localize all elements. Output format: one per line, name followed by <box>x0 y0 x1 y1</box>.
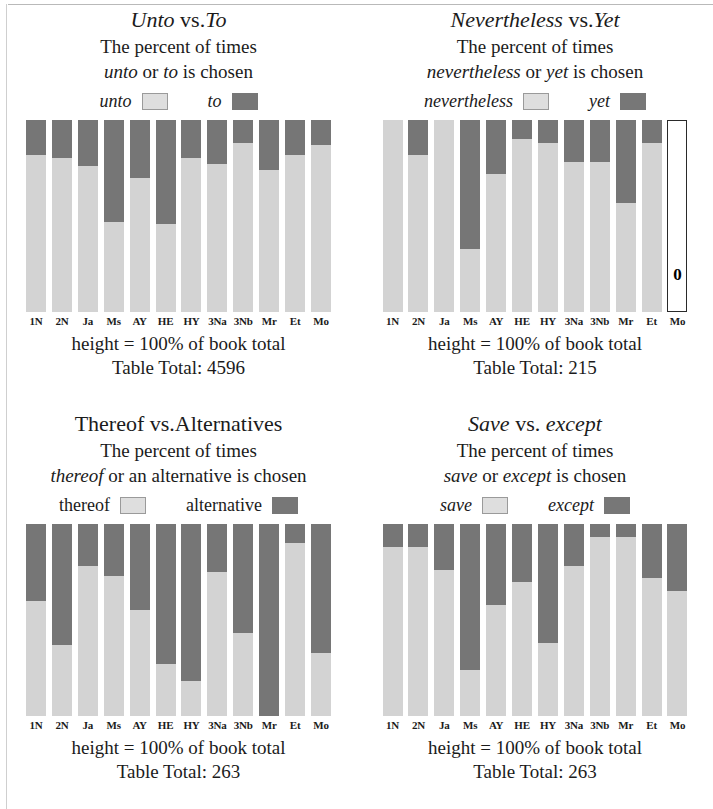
footer-table-total: Table Total: 263 <box>428 760 642 784</box>
bar-segment-dark <box>285 120 305 155</box>
x-tick-HY: HY <box>538 719 558 731</box>
bar-segment-dark <box>642 524 662 578</box>
bar-3Na <box>564 524 584 716</box>
x-tick-1N: 1N <box>26 315 46 327</box>
bar-segment-dark <box>564 120 584 162</box>
bar-segment-light <box>78 166 98 312</box>
bar-Ms <box>460 524 480 716</box>
bar-3Nb <box>590 120 610 312</box>
x-tick-3Nb: 3Nb <box>590 315 610 327</box>
x-tick-3Nb: 3Nb <box>590 719 610 731</box>
bar-segment-dark <box>460 524 480 670</box>
legend-swatch-dark <box>232 93 258 110</box>
bar-segment-light <box>434 570 454 716</box>
x-tick-Ms: Ms <box>460 315 480 327</box>
bar-segment-dark <box>311 120 331 145</box>
bar-segment-light <box>156 664 176 716</box>
bar-segment-light <box>52 158 72 312</box>
subtitle-term1: nevertheless <box>427 61 521 82</box>
plot-area <box>26 120 331 312</box>
footer-height-note: height = 100% of book total <box>428 736 642 760</box>
subtitle-term1: save <box>444 465 478 486</box>
bar-Ms <box>104 120 124 312</box>
x-tick-3Na: 3Na <box>564 315 584 327</box>
bar-segment-dark <box>259 524 279 716</box>
plot-area: 0 <box>383 120 688 312</box>
x-axis-labels: 1N2NJaMsAYHEHY3Na3NbMrEtMo <box>383 315 688 327</box>
subtitle-conj: or <box>138 61 163 82</box>
panel-title-vs: vs. <box>563 7 594 32</box>
x-tick-3Na: 3Na <box>207 719 227 731</box>
bar-2N <box>52 120 72 312</box>
panel-subtitle-line2: nevertheless or yet is chosen <box>427 60 643 83</box>
x-tick-Ja: Ja <box>434 315 454 327</box>
bar-AY <box>130 120 150 312</box>
bar-Mo <box>311 524 331 716</box>
bar-segment-light <box>311 653 331 716</box>
bar-segment-light <box>512 139 532 312</box>
bar-segment-light <box>538 643 558 716</box>
bar-segment-dark <box>104 120 124 222</box>
panel-footer: height = 100% of book total Table Total:… <box>428 736 642 784</box>
bar-segment-light <box>285 155 305 312</box>
bar-3Na <box>564 120 584 312</box>
panel-footer: height = 100% of book total Table Total:… <box>72 332 286 380</box>
legend-swatch-dark <box>272 497 298 514</box>
subtitle-term1: unto <box>104 61 138 82</box>
bar-segment-dark <box>642 120 662 143</box>
bar-segment-light <box>383 120 403 312</box>
bar-segment-light <box>26 155 46 312</box>
bar-3Nb <box>233 120 253 312</box>
subtitle-term2: yet <box>546 61 568 82</box>
bar-AY <box>130 524 150 716</box>
footer-table-total: Table Total: 263 <box>72 760 286 784</box>
bar-segment-dark <box>285 524 305 543</box>
bar-Et <box>285 120 305 312</box>
x-tick-3Nb: 3Nb <box>233 315 253 327</box>
bar-segment-dark <box>667 524 687 591</box>
x-tick-1N: 1N <box>383 315 403 327</box>
x-tick-2N: 2N <box>408 719 428 731</box>
bar-Ja <box>78 120 98 312</box>
x-tick-1N: 1N <box>26 719 46 731</box>
x-tick-HY: HY <box>181 719 201 731</box>
x-tick-HE: HE <box>512 315 532 327</box>
bar-segment-dark <box>26 524 46 601</box>
bar-segment-dark <box>434 524 454 570</box>
panel-title: Save vs. except <box>468 410 602 437</box>
panel-subtitle-line2: save or except is chosen <box>444 464 627 487</box>
bar-segment-light <box>383 547 403 716</box>
bar-segment-dark <box>590 524 610 537</box>
bar-3Nb <box>233 524 253 716</box>
panel-title-term2: Alternatives <box>175 411 283 436</box>
bar-segment-light <box>78 566 98 716</box>
legend: nevertheless yet <box>424 90 646 112</box>
legend-label-light: nevertheless <box>424 91 513 112</box>
legend-label-light: save <box>440 495 472 516</box>
bar-segment-light <box>590 537 610 716</box>
bar-segment-dark <box>486 120 506 174</box>
bar-3Na <box>207 524 227 716</box>
bar-HY <box>181 120 201 312</box>
x-tick-Mo: Mo <box>667 719 687 731</box>
footer-height-note: height = 100% of book total <box>72 736 286 760</box>
x-tick-Ja: Ja <box>434 719 454 731</box>
x-tick-Mr: Mr <box>616 719 636 731</box>
x-tick-Ms: Ms <box>104 315 124 327</box>
bar-segment-light <box>667 591 687 716</box>
bar-Ms <box>104 524 124 716</box>
bar-segment-dark <box>207 120 227 164</box>
bar-segment-light <box>104 576 124 716</box>
bar-segment-dark <box>538 120 558 143</box>
footer-height-note: height = 100% of book total <box>72 332 286 356</box>
bar-segment-dark <box>156 120 176 224</box>
bar-segment-light <box>564 162 584 312</box>
bar-AY <box>486 120 506 312</box>
subtitle-conj: or <box>477 465 502 486</box>
x-tick-2N: 2N <box>52 719 72 731</box>
bar-HE <box>156 120 176 312</box>
bar-1N <box>383 120 403 312</box>
bar-segment-dark <box>383 524 403 547</box>
panel-subtitle-line1: The percent of times <box>457 439 614 462</box>
x-tick-Mo: Mo <box>311 315 331 327</box>
